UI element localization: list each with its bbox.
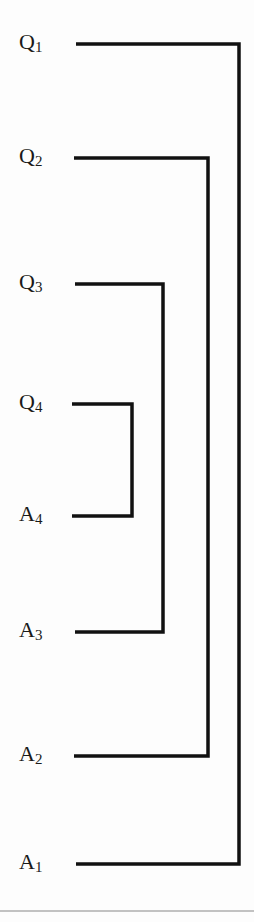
- bracket-q4-a4: [72, 404, 132, 516]
- bracket-q1-a1: [76, 44, 239, 864]
- bracket-lines: [0, 0, 254, 922]
- bracket-q3-a3: [75, 284, 163, 632]
- bracket-q2-a2: [74, 158, 208, 756]
